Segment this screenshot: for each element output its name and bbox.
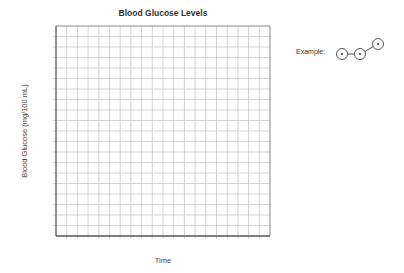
example-label: Example:: [296, 48, 325, 55]
example-point-icon: [330, 34, 390, 66]
